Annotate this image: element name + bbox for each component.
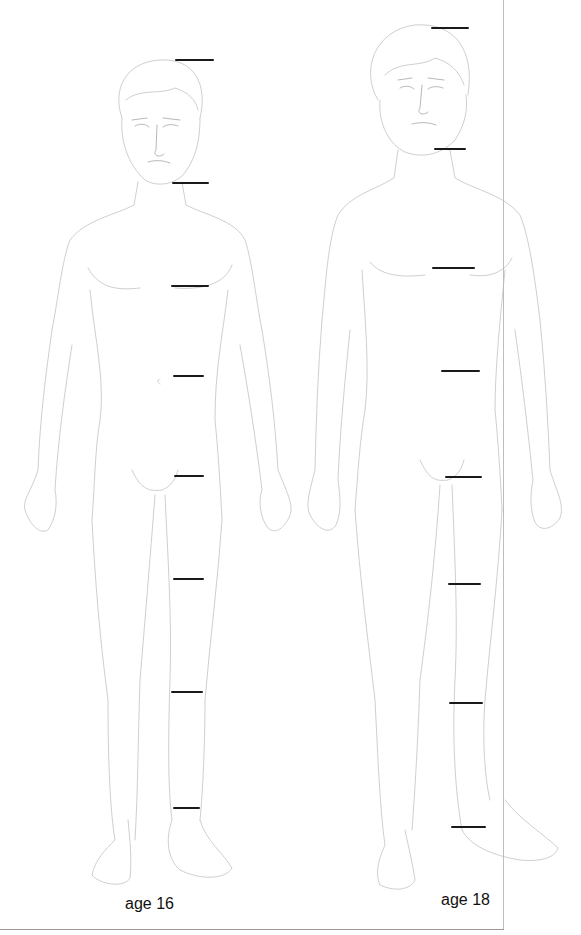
proportion-marker	[451, 826, 486, 828]
proportion-marker	[431, 27, 469, 29]
proportion-marker	[449, 702, 483, 704]
proportion-marker	[434, 148, 466, 150]
proportion-marker	[448, 583, 481, 585]
proportion-marker	[441, 370, 480, 372]
proportion-marker	[445, 476, 482, 478]
proportion-diagram: age 16 age 18	[0, 0, 581, 935]
page-border-bottom	[0, 929, 504, 930]
page-border-right	[503, 0, 504, 930]
figure-label-age-16: age 16	[125, 895, 174, 913]
figure-label-age-18: age 18	[441, 891, 490, 909]
proportion-marker	[432, 267, 475, 269]
figure-age-18	[0, 0, 581, 935]
